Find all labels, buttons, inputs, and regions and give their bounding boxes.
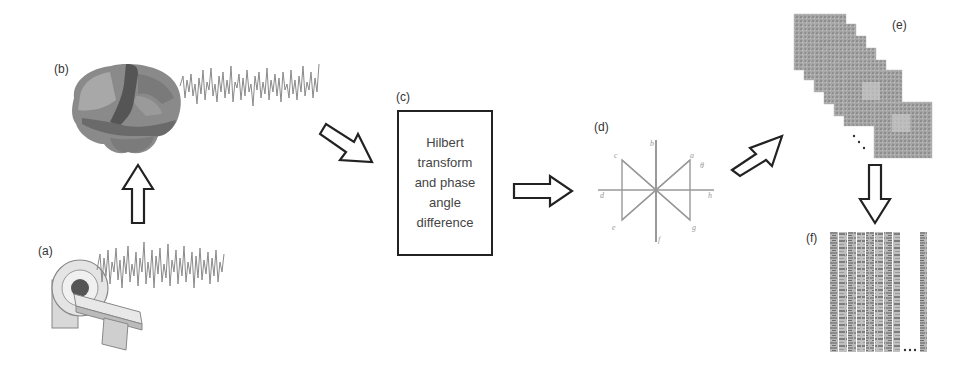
svg-text:f: f [658,235,662,244]
panel-label-a: (a) [38,244,53,258]
panel-label-d: (d) [594,120,609,134]
hilbert-transform-box: Hilbert transform and phase angle differ… [397,110,493,256]
brain-signal-waveform [180,56,320,130]
hilbert-transform-text: Hilbert transform and phase angle differ… [415,133,476,233]
phase-angle-diagram: b c a θ d h e f g [596,138,716,244]
arrow-up-right-icon[interactable] [728,130,786,176]
arrow-right-icon[interactable] [512,174,574,208]
brain-icon [66,60,186,160]
svg-text:h: h [708,191,712,200]
arrow-down-icon[interactable] [858,163,892,225]
svg-text:a: a [690,151,694,160]
svg-text:d: d [600,191,605,200]
arrow-down-right-icon[interactable] [318,120,374,166]
panel-label-c: (c) [396,90,410,104]
svg-text:θ: θ [700,161,704,170]
feature-matrix [830,232,950,356]
panel-label-f: (f) [806,231,817,245]
synchrony-matrix-stack [792,12,932,158]
fmri-signal-waveform [97,236,225,308]
svg-text:b: b [650,139,654,148]
svg-text:g: g [692,223,696,232]
svg-text:e: e [612,223,616,232]
arrow-up-icon[interactable] [121,163,155,225]
svg-text:c: c [614,151,618,160]
